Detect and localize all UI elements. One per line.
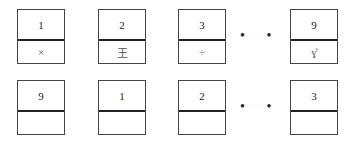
- row2-cell2: 1: [98, 80, 146, 135]
- row2-cell4: 3: [290, 80, 338, 135]
- cell-index: 2: [99, 10, 145, 41]
- cell-symbol: ɣ̊: [291, 41, 337, 63]
- row1-cell4: 9 ɣ̊: [290, 9, 338, 64]
- cell-symbol: [18, 112, 64, 134]
- cell-index: 9: [18, 81, 64, 112]
- row2-cell1: 9: [17, 80, 65, 135]
- cell-index: 9: [291, 10, 337, 41]
- cell-symbol: ÷: [179, 41, 225, 63]
- cell-symbol: [99, 112, 145, 134]
- row1-cell1: 1 ×: [17, 9, 65, 64]
- cell-index: 1: [18, 10, 64, 41]
- row1-cell3: 3 ÷: [178, 9, 226, 64]
- cell-index: 2: [179, 81, 225, 112]
- cell-symbol: 王: [99, 41, 145, 63]
- row1-cell2: 2 王: [98, 9, 146, 64]
- cell-index: 1: [99, 81, 145, 112]
- cell-symbol: [179, 112, 225, 134]
- row2-cell3: 2: [178, 80, 226, 135]
- cell-symbol: ×: [18, 41, 64, 63]
- cell-index: 3: [291, 81, 337, 112]
- cell-index: 3: [179, 10, 225, 41]
- cell-symbol: [291, 112, 337, 134]
